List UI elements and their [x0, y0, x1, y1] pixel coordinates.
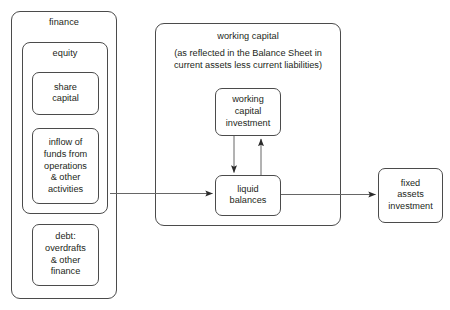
inflow-of-funds-node: inflow offunds fromoperations& otheracti…	[32, 128, 99, 204]
inflow-of-funds-label: inflow offunds fromoperations& otheracti…	[33, 137, 98, 196]
fixed-assets-investment-node: fixedassetsinvestment	[378, 168, 443, 223]
liquid-balances-node: liquidbalances	[215, 175, 281, 216]
debt-node: debt:overdrafts& otherfinance	[32, 224, 99, 286]
liquid-balances-label: liquidbalances	[216, 184, 280, 208]
finance-group-label: finance	[11, 17, 117, 28]
diagram-canvas: finance equity sharecapital inflow offun…	[0, 0, 450, 310]
share-capital-node: sharecapital	[32, 72, 99, 115]
debt-label: debt:overdrafts& otherfinance	[33, 231, 98, 278]
share-capital-label: sharecapital	[33, 82, 98, 106]
equity-group-label: equity	[22, 48, 108, 59]
working-capital-group-label: working capital	[155, 31, 341, 42]
working-capital-investment-node: workingcapitalinvestment	[215, 88, 281, 136]
fixed-assets-investment-label: fixedassetsinvestment	[379, 178, 442, 213]
working-capital-investment-label: workingcapitalinvestment	[216, 94, 280, 129]
working-capital-subtitle: (as reflected in the Balance Sheet in cu…	[155, 48, 341, 71]
